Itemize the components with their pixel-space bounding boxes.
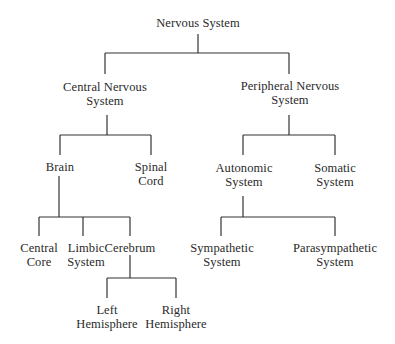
node-label: Cerebrum <box>105 241 156 255</box>
node-label-line1: Spinal <box>135 160 168 174</box>
node-label-line2: System <box>67 255 104 269</box>
node-spinal-cord: Spinal Cord <box>135 160 168 188</box>
node-left-hemisphere: Left Hemisphere <box>76 303 137 331</box>
node-right-hemisphere: Right Hemisphere <box>145 303 206 331</box>
node-label: Nervous System <box>156 16 240 30</box>
node-label-line1: Sympathetic <box>190 241 254 255</box>
node-nervous-system: Nervous System <box>156 16 240 30</box>
node-label-line2: System <box>293 255 377 269</box>
node-label-line1: Limbic <box>67 241 104 255</box>
node-label-line1: Peripheral Nervous <box>241 79 340 93</box>
node-label-line2: Core <box>20 255 58 269</box>
node-label: Brain <box>46 160 74 174</box>
node-label-line2: System <box>314 175 356 189</box>
nervous-system-tree-diagram: Nervous System Central Nervous System Pe… <box>0 0 395 344</box>
node-label-line2: System <box>190 255 254 269</box>
node-label-line1: Right <box>145 303 206 317</box>
node-peripheral-nervous-system: Peripheral Nervous System <box>241 79 340 107</box>
node-label-line2: Hemisphere <box>145 317 206 331</box>
node-autonomic-system: Autonomic System <box>215 161 272 189</box>
node-label-line1: Left <box>76 303 137 317</box>
node-label-line1: Somatic <box>314 161 356 175</box>
node-label-line1: Central Nervous <box>63 80 147 94</box>
node-somatic-system: Somatic System <box>314 161 356 189</box>
node-label-line2: System <box>241 93 340 107</box>
node-central-core: Central Core <box>20 241 58 269</box>
node-label-line1: Parasympathetic <box>293 241 377 255</box>
node-parasympathetic-system: Parasympathetic System <box>293 241 377 269</box>
node-label-line2: Hemisphere <box>76 317 137 331</box>
node-limbic-system: Limbic System <box>67 241 104 269</box>
node-label-line2: System <box>215 175 272 189</box>
node-cerebrum: Cerebrum <box>105 241 156 255</box>
node-brain: Brain <box>46 160 74 174</box>
node-label-line2: System <box>63 94 147 108</box>
node-label-line1: Autonomic <box>215 161 272 175</box>
node-label-line2: Cord <box>135 174 168 188</box>
node-sympathetic-system: Sympathetic System <box>190 241 254 269</box>
node-central-nervous-system: Central Nervous System <box>63 80 147 108</box>
node-label-line1: Central <box>20 241 58 255</box>
